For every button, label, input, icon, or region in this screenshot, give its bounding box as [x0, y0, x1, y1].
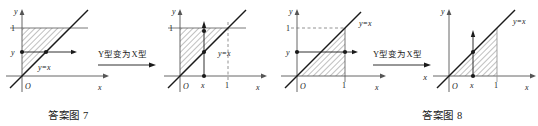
figure-8-caption-text: 答案图 8 [422, 107, 463, 122]
y-tick-1: 1 [169, 24, 173, 33]
x-axis-arrowhead [530, 74, 536, 79]
figure-8-caption: 答案图 8 [269, 107, 538, 122]
figure-8-group: y x O 1 y 1 y=x Y型变为X型 x [269, 0, 538, 126]
scan-start-point [295, 50, 299, 54]
figure-8-right-plot: y x O x 1 y=x [429, 4, 538, 96]
scan-end-point [44, 50, 48, 54]
scan-arrow-head [71, 50, 77, 54]
y-axis-arrowhead [295, 9, 300, 15]
figure-7-group: y x O 1 y y=x Y型变为X型 [0, 0, 269, 126]
figure-sheet: y x O 1 y y=x Y型变为X型 [0, 0, 538, 126]
x-axis-label: x [374, 83, 379, 92]
figure-7-caption-text: 答案图 7 [48, 107, 89, 122]
figure-7-left-plot: y x O 1 y y=x [2, 4, 112, 96]
y-axis-label: y [171, 7, 176, 16]
figure-7-right-plot: y x O 1 x 1 y=x [160, 4, 270, 96]
figure-8-right-panel: y x O x 1 y=x [429, 4, 538, 96]
scan-start-point [471, 74, 475, 78]
x-axis-arrowhead [261, 74, 267, 79]
origin-label: O [452, 82, 458, 91]
figure-7-transform-text: Y型变为X型 [98, 47, 158, 59]
x-tick-1: 1 [342, 81, 346, 90]
y-axis-arrowhead [178, 9, 183, 15]
x-axis-label: x [97, 83, 102, 92]
line-equation-label: y=x [512, 17, 526, 26]
scan-end-point [202, 29, 206, 33]
scan-end-point [343, 50, 347, 54]
y-tick-y: y [10, 48, 15, 57]
line-equation-label: y=x [37, 63, 51, 72]
y-tick-y: y [285, 48, 290, 57]
y-axis-label: y [440, 7, 445, 16]
scan-arrow-head [352, 50, 358, 54]
scan-start-point [20, 50, 24, 54]
x-axis-label: x [524, 83, 529, 92]
x-tick-1: 1 [225, 81, 229, 90]
x-axis-label: x [255, 83, 260, 92]
figure-8-transform-arrow [373, 59, 433, 71]
origin-label: O [25, 82, 31, 91]
y-axis-arrowhead [20, 9, 25, 15]
x-tick-x: x [200, 81, 205, 90]
figure-8-transform-annotation: Y型变为X型 x [373, 47, 433, 82]
y-tick-1: 1 [286, 24, 290, 33]
x-tick-1: 1 [494, 81, 498, 90]
figure-7-transform-annotation: Y型变为X型 [98, 47, 158, 73]
figure-7-caption: 答案图 7 [0, 107, 269, 122]
scan-start-point [202, 74, 206, 78]
scan-mid-point [202, 50, 206, 54]
figure-8-transform-arrow-sublabel: x [373, 72, 433, 82]
x-axis-arrowhead [103, 74, 109, 79]
scan-arrow-head [202, 21, 206, 28]
y-axis-label: y [13, 7, 18, 16]
figure-7-left-panel: y x O 1 y y=x [2, 4, 112, 96]
figure-7-right-panel: y x O 1 x 1 y=x [160, 4, 270, 96]
figure-8-transform-text: Y型变为X型 [373, 47, 433, 59]
y-axis-label: y [288, 7, 293, 16]
scan-arrow-head [471, 30, 475, 37]
y-axis-arrowhead [447, 9, 452, 15]
line-equation-label: y=x [217, 49, 231, 58]
origin-label: O [183, 82, 189, 91]
line-equation-label: y=x [358, 19, 372, 28]
figure-7-transform-arrow [98, 59, 158, 71]
origin-label: O [300, 82, 306, 91]
y-tick-1: 1 [11, 24, 15, 33]
x-tick-x: x [469, 81, 474, 90]
scan-end-point [471, 50, 475, 54]
